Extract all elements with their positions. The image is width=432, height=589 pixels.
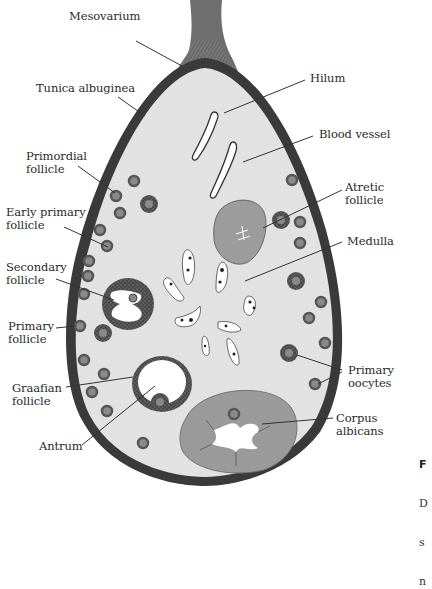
figure-letter: F — [419, 458, 432, 471]
graafian-follicle — [132, 356, 192, 412]
label-primordial-follicle: Primordial follicle — [26, 150, 87, 176]
label-antrum: Antrum — [39, 440, 83, 453]
label-atretic-follicle: Atretic follicle — [345, 181, 384, 207]
label-corpus-albicans: Corpus albicans — [336, 412, 383, 438]
secondary-follicle — [102, 278, 154, 330]
label-blood-vessel: Blood vessel — [319, 128, 390, 141]
label-mesovarium: Mesovarium — [69, 10, 140, 23]
label-primary-follicle: Primary follicle — [8, 320, 54, 346]
label-secondary-follicle: Secondary follicle — [6, 261, 67, 287]
label-medulla: Medulla — [347, 235, 394, 248]
figure-caption-fragment: F D s n — [419, 432, 432, 589]
label-graafian-follicle: Graafian follicle — [12, 382, 62, 408]
caption-line-1: D — [419, 497, 432, 510]
label-primary-oocytes: Primary oocytes — [348, 364, 394, 390]
label-hilum: Hilum — [310, 72, 345, 85]
caption-line-3: n — [419, 575, 432, 588]
label-early-primary-follicle: Early primary follicle — [6, 206, 86, 232]
label-tunica-albuginea: Tunica albuginea — [36, 82, 135, 95]
caption-line-2: s — [419, 536, 432, 549]
